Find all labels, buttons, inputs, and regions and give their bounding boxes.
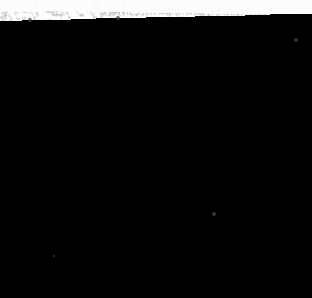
image-canvas: Dark coarse granular triangular specimen… <box>0 0 312 298</box>
granular-triangle-photo <box>0 0 312 298</box>
